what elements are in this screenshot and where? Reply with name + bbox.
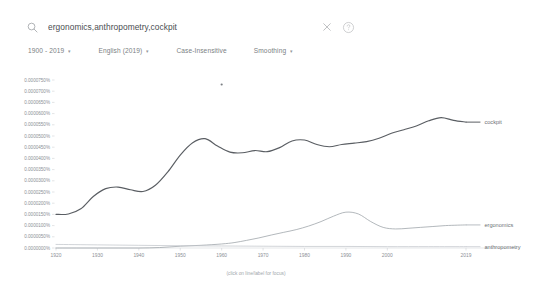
series-line-cockpit[interactable]: [56, 118, 466, 215]
chart-point-marker: [221, 83, 223, 85]
series-line-ergonomics[interactable]: [56, 212, 466, 248]
chevron-down-icon: ▾: [146, 49, 149, 54]
y-axis-tick-label: 0.0000650%: [24, 100, 50, 105]
y-axis-tick-label: 0.0000050%: [24, 234, 50, 239]
y-axis-tick-label: 0.0000750%: [24, 78, 50, 83]
chevron-down-icon: ▾: [290, 49, 293, 54]
y-axis-tick-label: 0.0000550%: [24, 122, 50, 127]
corpus-label: English (2019): [98, 47, 142, 54]
series-label-anthropometry[interactable]: anthropometry: [484, 244, 520, 250]
y-axis-tick-label: 0.0000450%: [24, 145, 50, 150]
x-axis-tick-label: 1960: [216, 253, 227, 258]
series-label-cockpit[interactable]: cockpit: [484, 119, 502, 125]
search-icon: [27, 22, 38, 33]
x-axis-tick-label: 1990: [340, 253, 351, 258]
case-insensitive-label: Case-Insensitive: [176, 47, 226, 54]
filter-row: 1900 - 2019 ▾ English (2019) ▾ Case-Inse…: [28, 47, 293, 54]
y-axis-tick-label: 0.0000250%: [24, 190, 50, 195]
series-line-anthropometry[interactable]: [56, 244, 466, 246]
y-axis-tick-label: 0.0000150%: [24, 212, 50, 217]
chart-annotations: [221, 83, 223, 85]
year-range-label: 1900 - 2019: [28, 47, 64, 54]
y-axis-tick-label: 0.0000300%: [24, 178, 50, 183]
y-axis-tick-label: 0.0000400%: [24, 156, 50, 161]
close-icon[interactable]: [321, 21, 333, 33]
y-axis-tick-label: 0.0000100%: [24, 223, 50, 228]
corpus-selector[interactable]: English (2019) ▾: [98, 47, 149, 54]
x-axis-tick-label: 1920: [51, 253, 62, 258]
x-axis-ticks: 1920193019401950196019701980199020002019: [51, 248, 472, 258]
y-axis-tick-label: 0.0000500%: [24, 134, 50, 139]
smoothing-label: Smoothing: [254, 47, 286, 54]
help-circle-icon[interactable]: [342, 21, 355, 34]
search-bar[interactable]: [27, 17, 355, 37]
smoothing-selector[interactable]: Smoothing ▾: [254, 47, 294, 54]
x-axis-tick-label: 1930: [92, 253, 103, 258]
x-axis-tick-label: 1950: [175, 253, 186, 258]
case-insensitive-toggle[interactable]: Case-Insensitive: [176, 47, 226, 54]
chart-svg[interactable]: 0.0000750%0.0000700%0.0000650%0.0000600%…: [0, 68, 551, 283]
series-lines[interactable]: cockpitergonomicsanthropometry: [56, 118, 521, 250]
chart-hint-label: (click on line/label for focus): [226, 271, 286, 276]
y-axis-tick-label: 0.0000200%: [24, 201, 50, 206]
y-axis-tick-label: 0.0000600%: [24, 111, 50, 116]
year-range-selector[interactable]: 1900 - 2019 ▾: [28, 47, 71, 54]
x-axis-tick-label: 1940: [133, 253, 144, 258]
ngram-viewer-app: 1900 - 2019 ▾ English (2019) ▾ Case-Inse…: [0, 0, 551, 283]
y-axis-tick-label: 0.0000000%: [24, 246, 50, 251]
y-axis-tick-label: 0.0000350%: [24, 167, 50, 172]
y-axis-ticks: 0.0000750%0.0000700%0.0000650%0.0000600%…: [24, 78, 54, 251]
chevron-down-icon: ▾: [68, 49, 71, 54]
y-axis-tick-label: 0.0000700%: [24, 89, 50, 94]
x-axis-tick-label: 2019: [461, 253, 472, 258]
search-input[interactable]: [48, 20, 317, 34]
x-axis-tick-label: 1980: [299, 253, 310, 258]
x-axis-tick-label: 2000: [382, 253, 393, 258]
ngram-chart[interactable]: 0.0000750%0.0000700%0.0000650%0.0000600%…: [0, 68, 551, 283]
x-axis-tick-label: 1970: [258, 253, 269, 258]
series-label-ergonomics[interactable]: ergonomics: [484, 222, 513, 228]
